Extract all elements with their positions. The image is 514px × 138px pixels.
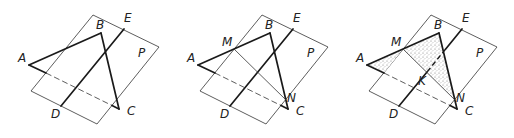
geometry-figure: A B E P D C A M B E P N D C — [0, 0, 514, 138]
segment-ac-visible — [29, 65, 46, 73]
label-c: C — [465, 104, 474, 118]
label-p: P — [138, 46, 146, 60]
label-m: M — [222, 35, 233, 49]
label-b: B — [96, 18, 104, 32]
label-m: M — [391, 35, 402, 49]
label-a: A — [186, 51, 195, 65]
label-b: B — [265, 18, 273, 32]
segment-bc — [101, 33, 119, 109]
label-d: D — [51, 107, 60, 121]
label-n: N — [287, 91, 296, 105]
segment-ac-hidden — [215, 73, 281, 106]
panel-1: A B E P D C — [17, 11, 159, 124]
label-n: N — [456, 91, 465, 105]
label-p: P — [476, 46, 484, 60]
label-d: D — [389, 107, 398, 121]
label-e: E — [462, 11, 470, 25]
segment-ab — [29, 33, 101, 65]
segment-bc — [270, 33, 288, 109]
label-c: C — [127, 104, 136, 118]
label-e: E — [124, 11, 132, 25]
label-b: B — [434, 18, 442, 32]
line-de — [61, 29, 124, 106]
line-de-upper — [446, 29, 463, 49]
segment-ac-visible — [198, 65, 215, 73]
panel-2: A M B E P N D C — [186, 11, 328, 124]
shaded-region-a — [367, 49, 403, 73]
label-c: C — [296, 104, 305, 118]
segment-ac-hidden — [46, 73, 112, 106]
label-a: A — [17, 51, 26, 65]
label-a: A — [355, 51, 364, 65]
line-de — [230, 29, 293, 106]
label-p: P — [307, 46, 315, 60]
label-d: D — [220, 107, 229, 121]
panel-3: A M B E P K N D C — [355, 11, 497, 124]
label-k: K — [418, 74, 427, 88]
label-e: E — [293, 11, 301, 25]
